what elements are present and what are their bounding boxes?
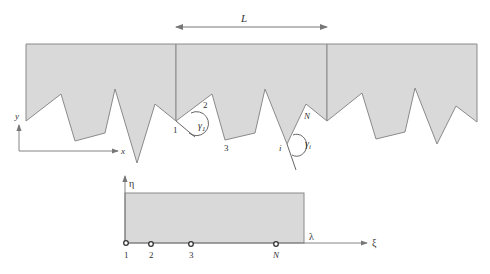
- point-2: [149, 242, 154, 247]
- gamma-1-label: γ1: [198, 120, 205, 133]
- lambda-label: λ: [309, 231, 314, 242]
- vertex-label-3: 3: [224, 143, 229, 153]
- point-1: [124, 241, 129, 246]
- point-N: [274, 242, 279, 247]
- y-axis-label: y: [14, 111, 19, 121]
- period-label: L: [240, 12, 247, 24]
- periodic-domain: [26, 44, 477, 163]
- point-label-2: 2: [149, 250, 154, 260]
- point-label-1: 1: [124, 250, 129, 260]
- xi-label: ξ: [372, 237, 377, 249]
- panel-left: [26, 44, 176, 163]
- x-axis-label: x: [120, 146, 125, 156]
- vertex-label-N: N: [303, 111, 311, 121]
- eta-label: η: [129, 178, 134, 189]
- vertex-label-i: i: [279, 143, 282, 153]
- point-label-N: N: [272, 250, 280, 260]
- angle-gamma-i: [287, 134, 307, 170]
- point-3: [189, 242, 194, 247]
- point-label-3: 3: [189, 250, 194, 260]
- conformal-map-diagram: L 1 2 3 N i γ1 γi y x η ξ λ 1 2 3: [0, 0, 490, 274]
- panel-right: [327, 44, 477, 144]
- vertex-label-1: 1: [173, 125, 178, 135]
- canonical-strip: [125, 193, 304, 243]
- vertex-label-2: 2: [203, 100, 208, 110]
